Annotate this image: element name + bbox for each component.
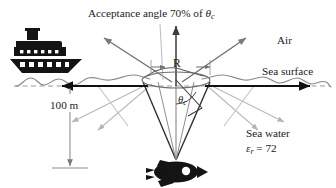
ship-icon: [10, 28, 82, 73]
acceptance-angle-text: Acceptance angle 70% of: [88, 7, 205, 19]
refracted-rays-down: [72, 84, 284, 130]
permittivity-equals: =: [254, 142, 266, 154]
permittivity-value: 72: [265, 142, 276, 154]
diagram-canvas: [0, 0, 336, 188]
sea-water-label: Sea water: [246, 128, 290, 140]
critical-angle-label: θc: [178, 94, 187, 107]
air-label: Air: [277, 35, 292, 47]
critical-angle-subscript: c: [183, 98, 186, 107]
acceptance-angle-label: Acceptance angle 70% of θc: [88, 8, 215, 21]
radius-label: R: [173, 58, 181, 70]
submarine-fish-icon: [146, 160, 208, 187]
underwater-optical-link-diagram: Acceptance angle 70% of θc Air Sea surfa…: [0, 0, 336, 188]
acceptance-angle-theta-subscript: c: [211, 12, 215, 21]
depth-label: 100 m: [50, 100, 78, 112]
title-leader-line: [160, 24, 163, 80]
permittivity-label: εr = 72: [246, 143, 277, 156]
sea-surface-label: Sea surface: [262, 66, 313, 78]
